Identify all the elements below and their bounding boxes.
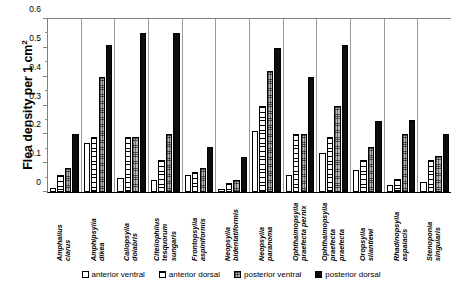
bar-posterior-dorsal <box>106 45 112 192</box>
legend-label: posterior dorsal <box>325 270 380 279</box>
bar-anterior-ventral <box>353 170 359 192</box>
bar-anterior-ventral <box>286 175 292 192</box>
x-axis-label-cell: Neopsyllaparanoma <box>249 195 283 263</box>
y-axis-tick-label: 0.6 <box>11 4 41 14</box>
x-axis-label-cell: Amphipsylladikea <box>81 195 115 263</box>
bar-posterior-ventral <box>368 147 374 192</box>
legend-item: posterior ventral <box>234 270 301 279</box>
bar-posterior-ventral <box>200 168 206 193</box>
x-axis-labels: AmphaliusclarusAmphipsylladikeaCallopsyl… <box>47 195 451 263</box>
bar-anterior-dorsal <box>327 137 333 192</box>
y-axis-tick-label: 0 <box>11 177 41 187</box>
legend-swatch-icon <box>234 271 241 278</box>
bar-posterior-dorsal <box>274 48 280 192</box>
y-axis-tick-label: 0.2 <box>11 119 41 129</box>
bar-posterior-dorsal <box>241 157 247 192</box>
bar-groups <box>48 19 451 192</box>
y-axis-tick-label: 0.5 <box>11 33 41 43</box>
bar-group <box>317 19 351 192</box>
bar-anterior-dorsal <box>192 172 198 192</box>
bar-anterior-ventral <box>420 182 426 192</box>
bar-group <box>149 19 183 192</box>
bar-posterior-dorsal <box>443 134 449 192</box>
legend: anterior ventralanterior dorsalposterior… <box>0 270 462 279</box>
bar-posterior-ventral <box>65 168 71 193</box>
legend-label: anterior ventral <box>92 270 145 279</box>
bar-group <box>385 19 419 192</box>
bar-group <box>284 19 318 192</box>
bar-anterior-dorsal <box>259 106 265 193</box>
bar-posterior-dorsal <box>207 147 213 192</box>
x-axis-label-cell: Ophthalmopsyllapraefectapraefecta <box>316 195 350 263</box>
bar-anterior-dorsal <box>158 160 164 192</box>
y-axis-tick-label: 0.3 <box>11 91 41 101</box>
x-axis-label-cell: Neopsyllabidentatiformis <box>215 195 249 263</box>
x-axis-label: Amphipsylladikea <box>89 195 106 261</box>
bar-posterior-ventral <box>99 77 105 192</box>
x-axis-label-cell: Ophthalmopsyllapraefecta pernix <box>283 195 317 263</box>
bar-anterior-ventral <box>387 185 393 192</box>
x-axis-label-cell: Callopsylladolabris <box>114 195 148 263</box>
bar-group <box>351 19 385 192</box>
x-axis-label: Amphaliusclarus <box>56 195 73 261</box>
bar-anterior-ventral <box>117 178 123 192</box>
flea-density-bar-chart: Flea density per 1 cm2 00.10.20.30.40.50… <box>0 0 462 295</box>
bar-anterior-dorsal <box>125 137 131 192</box>
x-axis-label-cell: Stenoponiasingularis <box>417 195 451 263</box>
bar-posterior-ventral <box>435 156 441 192</box>
bar-anterior-dorsal <box>360 160 366 192</box>
bar-posterior-ventral <box>267 71 273 192</box>
x-axis-label: Stenoponiasingularis <box>426 195 443 261</box>
x-axis-label: Neopsyllaparanoma <box>258 195 275 261</box>
bar-anterior-ventral <box>252 131 258 192</box>
bar-posterior-ventral <box>166 134 172 192</box>
bar-group <box>216 19 250 192</box>
x-axis-label: Ophthalmopsyllapraefectapraefecta <box>321 195 346 261</box>
bar-anterior-ventral <box>185 175 191 192</box>
bar-posterior-dorsal <box>140 33 146 192</box>
x-axis-label: Ophthalmopsyllapraefecta pernix <box>291 195 308 261</box>
x-axis-label-cell: Rhadinopsyllaaspalacis <box>384 195 418 263</box>
x-axis-label: Neopsyllabidentatiformis <box>224 195 241 261</box>
legend-item: anterior ventral <box>82 270 145 279</box>
bar-group <box>115 19 149 192</box>
bar-anterior-ventral <box>50 188 56 192</box>
legend-swatch-icon <box>159 271 166 278</box>
bar-posterior-dorsal <box>375 121 381 192</box>
legend-label: posterior ventral <box>244 270 301 279</box>
bar-posterior-dorsal <box>72 134 78 192</box>
bar-posterior-ventral <box>132 137 138 192</box>
bar-posterior-dorsal <box>308 77 314 192</box>
bar-anterior-dorsal <box>394 179 400 192</box>
bar-group <box>250 19 284 192</box>
bar-group <box>82 19 116 192</box>
x-axis-label-cell: Oropsyllasilantiewi <box>350 195 384 263</box>
bar-posterior-ventral <box>233 180 239 192</box>
x-axis-label-cell: Citellophilustesquorumsungaris <box>148 195 182 263</box>
bar-anterior-dorsal <box>91 137 97 192</box>
bar-posterior-dorsal <box>409 120 415 192</box>
x-axis-label: Rhadinopsyllaaspalacis <box>392 195 409 261</box>
y-axis-tick-label: 0.1 <box>11 148 41 158</box>
x-axis-label: Citellophilustesquorumsungaris <box>152 195 177 261</box>
y-axis-tick-label: 0.4 <box>11 62 41 72</box>
bar-anterior-ventral <box>151 180 157 192</box>
x-axis-label: Frontopsyllaaspiniformis <box>190 195 207 261</box>
x-axis-label: Callopsylladolabris <box>123 195 140 261</box>
bar-anterior-ventral <box>319 153 325 192</box>
bar-group <box>48 19 82 192</box>
bar-posterior-dorsal <box>342 45 348 192</box>
bar-anterior-dorsal <box>293 134 299 192</box>
x-axis-label: Oropsyllasilantiewi <box>359 195 376 261</box>
legend-swatch-icon <box>82 271 89 278</box>
bar-anterior-dorsal <box>57 175 63 192</box>
x-axis-label-cell: Frontopsyllaaspiniformis <box>182 195 216 263</box>
bar-posterior-ventral <box>402 134 408 192</box>
bar-group <box>418 19 451 192</box>
bar-anterior-dorsal <box>226 183 232 192</box>
x-axis-label-cell: Amphaliusclarus <box>47 195 81 263</box>
bar-anterior-dorsal <box>428 160 434 192</box>
bar-posterior-ventral <box>301 134 307 192</box>
legend-item: posterior dorsal <box>315 270 380 279</box>
bar-group <box>183 19 217 192</box>
